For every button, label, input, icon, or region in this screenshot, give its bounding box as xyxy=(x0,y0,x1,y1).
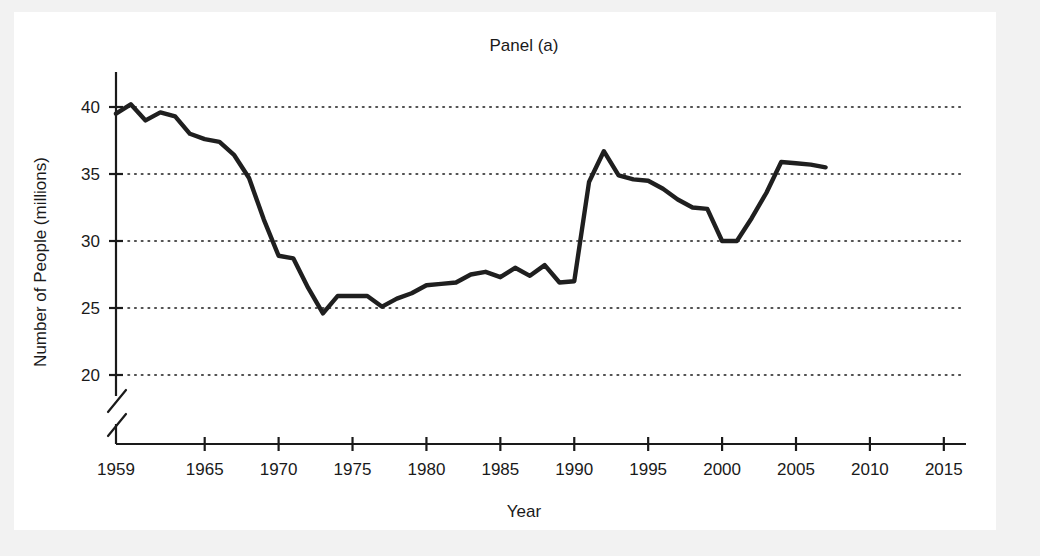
y-tick-label: 40 xyxy=(81,98,100,117)
y-tick-label: 20 xyxy=(81,366,100,385)
x-tick-label: 1990 xyxy=(555,460,593,479)
y-tick-label: 35 xyxy=(81,165,100,184)
x-tick-label: 1975 xyxy=(334,460,372,479)
y-axis-label: Number of People (millions) xyxy=(31,157,50,367)
x-tick-label: 1965 xyxy=(186,460,224,479)
chart-title: Panel (a) xyxy=(490,36,559,55)
x-tick-label: 1980 xyxy=(408,460,446,479)
data-line-series xyxy=(116,104,826,313)
line-chart: Panel (a) Number of People (millions) Ye… xyxy=(14,12,996,530)
gridlines xyxy=(128,107,961,375)
x-tick-label: 1959 xyxy=(97,460,135,479)
y-tick-label: 25 xyxy=(81,299,100,318)
x-tick-label: 2005 xyxy=(777,460,815,479)
figure-panel: Panel (a) Number of People (millions) Ye… xyxy=(14,12,996,530)
x-tick-label: 1970 xyxy=(260,460,298,479)
x-tick-label: 2010 xyxy=(851,460,889,479)
x-tick-label: 1995 xyxy=(629,460,667,479)
x-tick-label: 2015 xyxy=(925,460,963,479)
x-tick-label: 1985 xyxy=(481,460,519,479)
y-tick-label: 30 xyxy=(81,232,100,251)
x-axis-label: Year xyxy=(507,502,542,521)
x-tick-label: 2000 xyxy=(703,460,741,479)
